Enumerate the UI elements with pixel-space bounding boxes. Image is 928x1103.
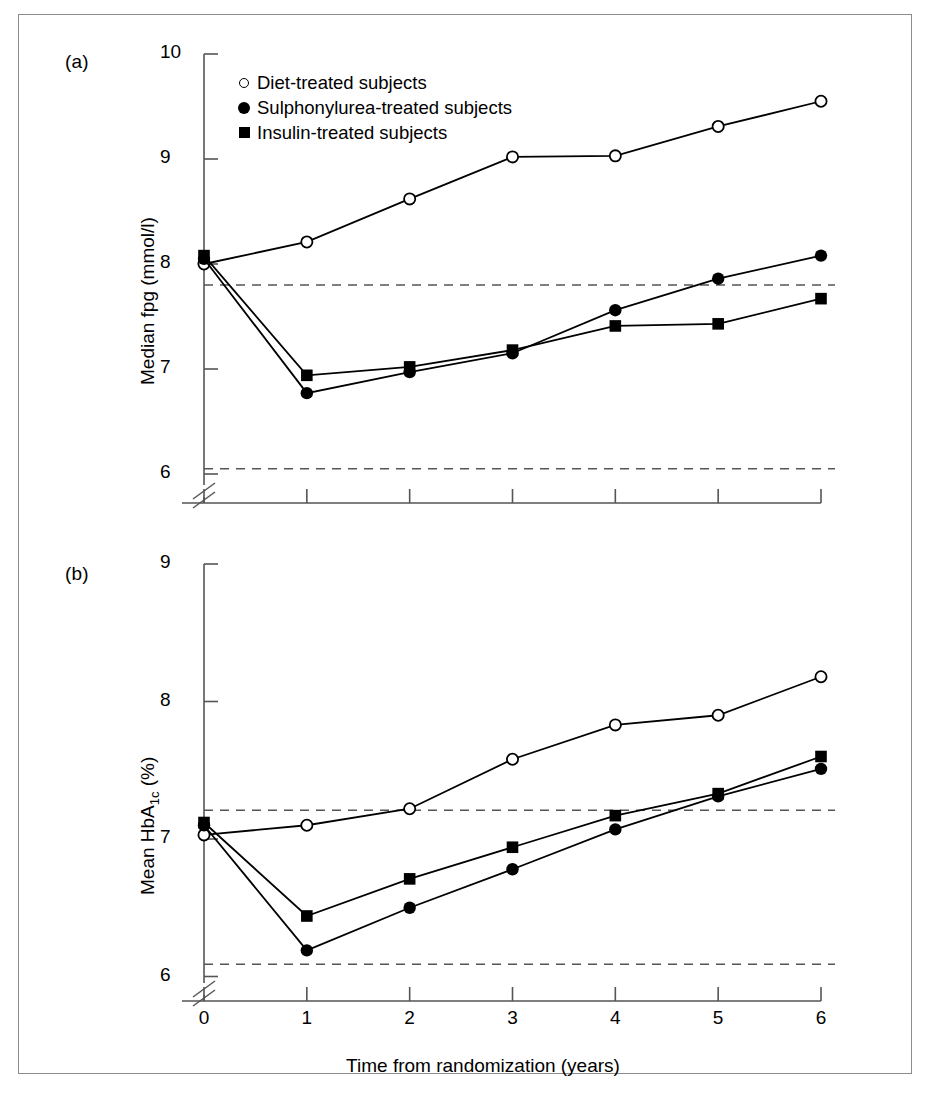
x-axis-tick-6: 6 — [801, 1007, 841, 1029]
data-point-open-circle — [610, 719, 621, 730]
panel-a-ytick-8: 8 — [160, 251, 171, 273]
data-point-open-circle — [713, 710, 724, 721]
data-point-open-circle — [301, 236, 312, 247]
panel-a-ytick-6: 6 — [160, 461, 171, 483]
data-point-filled-square — [301, 910, 313, 922]
data-point-open-circle — [815, 671, 826, 682]
panel-a-ytick-9: 9 — [160, 146, 171, 168]
panel-b-ytick-9: 9 — [160, 551, 171, 573]
data-point-filled-square — [301, 370, 313, 382]
data-point-open-circle — [507, 151, 518, 162]
data-point-filled-square — [404, 873, 416, 885]
data-point-filled-circle — [815, 249, 827, 261]
x-axis-tick-2: 2 — [390, 1007, 430, 1029]
data-point-filled-square — [610, 320, 622, 332]
data-point-open-circle — [301, 820, 312, 831]
series-line-filled-square — [204, 757, 821, 917]
panel-b-ytick-7: 7 — [160, 826, 171, 848]
panel-b-ytick-8: 8 — [160, 689, 171, 711]
data-point-filled-circle — [301, 387, 313, 399]
data-point-filled-circle — [301, 944, 313, 956]
x-axis-tick-3: 3 — [493, 1007, 533, 1029]
data-point-filled-square — [815, 751, 827, 763]
x-axis-tick-1: 1 — [287, 1007, 327, 1029]
series-line-filled-circle — [204, 769, 821, 951]
data-point-filled-square — [507, 344, 519, 356]
panel-a-group — [182, 54, 835, 508]
series-line-filled-circle — [204, 256, 821, 394]
data-point-open-circle — [713, 121, 724, 132]
x-axis-tick-5: 5 — [698, 1007, 738, 1029]
data-point-filled-square — [815, 293, 827, 305]
data-point-filled-circle — [815, 763, 827, 775]
x-axis-tick-0: 0 — [184, 1007, 224, 1029]
data-point-filled-circle — [506, 863, 518, 875]
data-point-open-circle — [507, 754, 518, 765]
data-point-open-circle — [404, 803, 415, 814]
panel-a-ytick-10: 10 — [160, 41, 181, 63]
data-point-filled-square — [198, 817, 210, 829]
data-point-filled-circle — [403, 902, 415, 914]
data-point-filled-square — [404, 361, 416, 373]
data-point-filled-square — [198, 250, 210, 262]
panel-b-ytick-6: 6 — [160, 964, 171, 986]
data-point-open-circle — [610, 150, 621, 161]
data-point-filled-square — [507, 841, 519, 853]
series-line-open-circle — [204, 101, 821, 264]
chart-plot-area — [19, 15, 913, 1075]
data-point-filled-circle — [609, 823, 621, 835]
data-point-open-circle — [815, 96, 826, 107]
data-point-filled-square — [712, 318, 724, 330]
data-point-filled-square — [610, 810, 622, 822]
panel-a-ytick-7: 7 — [160, 356, 171, 378]
x-axis-tick-4: 4 — [595, 1007, 635, 1029]
panel-b-group — [182, 564, 835, 1006]
data-point-filled-circle — [712, 273, 724, 285]
data-point-filled-square — [712, 788, 724, 800]
data-point-open-circle — [404, 193, 415, 204]
data-point-filled-circle — [609, 304, 621, 316]
figure-frame: (a) (b) Median fpg (mmol/l) Mean HbA1c (… — [18, 14, 912, 1074]
